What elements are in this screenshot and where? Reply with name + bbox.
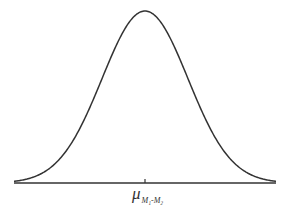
normal-distribution-figure — [0, 0, 287, 212]
bell-curve — [14, 11, 276, 181]
mean-difference-label: μM₁-M₂ — [132, 185, 163, 209]
mu-symbol: μ — [132, 184, 141, 203]
mu-subscript: M₁-M₂ — [142, 196, 164, 205]
